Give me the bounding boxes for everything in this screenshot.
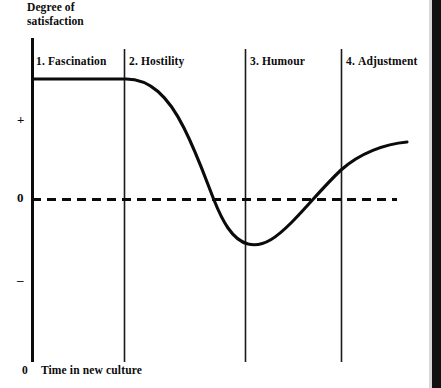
culture-shock-figure: Degree of satisfaction + 0 – 1.Fascinati…	[0, 0, 441, 388]
phase-text-2: Hostility	[141, 55, 185, 67]
x-axis-origin-label: 0	[22, 364, 28, 376]
page-edge-black-band	[432, 0, 441, 388]
x-axis-title: Time in new culture	[41, 364, 142, 376]
y-axis-title-line1: Degree of	[27, 1, 75, 13]
y-axis-title: Degree of satisfaction	[27, 1, 84, 28]
x-axis-caption: 0Time in new culture	[22, 364, 142, 378]
phase-text-1: Fascination	[48, 55, 107, 67]
y-tick-label-zero: 0	[17, 190, 24, 205]
satisfaction-curve	[33, 79, 407, 245]
phase-number-3: 3.	[250, 55, 259, 67]
phase-label-humour: 3.Humour	[250, 55, 305, 69]
phase-text-3: Humour	[262, 55, 305, 67]
phase-number-4: 4.	[346, 55, 355, 67]
phase-label-fascination: 1.Fascination	[36, 55, 106, 69]
phase-text-4: Adjustment	[358, 55, 418, 67]
y-axis-title-line2: satisfaction	[27, 15, 84, 29]
phase-number-2: 2.	[129, 55, 138, 67]
y-tick-label-plus: +	[17, 112, 24, 127]
phase-label-hostility: 2.Hostility	[129, 55, 184, 69]
y-tick-label-minus: –	[17, 272, 24, 287]
phase-number-1: 1.	[36, 55, 45, 67]
phase-label-adjustment: 4.Adjustment	[346, 55, 418, 69]
